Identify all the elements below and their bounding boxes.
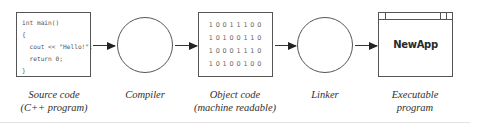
- code-line: {: [22, 32, 26, 38]
- compilation-diagram: int main() { cout << "Hello!"; return 0;…: [0, 0, 477, 129]
- code-line: int main(): [22, 20, 59, 26]
- code-line: }: [22, 68, 26, 74]
- executable-window: NewApp: [378, 12, 453, 77]
- app-name: NewApp: [379, 39, 452, 50]
- code-line: return 0;: [22, 56, 63, 62]
- source-code-box: int main() { cout << "Hello!"; return 0;…: [16, 12, 91, 77]
- binary-line: 10011100: [199, 22, 272, 29]
- window-titlebar: [379, 13, 452, 20]
- linker-circle: [297, 17, 353, 73]
- window-close-icon: [446, 13, 447, 19]
- window-minimize-icon: [440, 13, 441, 19]
- label-line: Executable: [360, 88, 470, 101]
- arrow-right-icon: [275, 45, 296, 46]
- executable-label: Executable program: [360, 88, 470, 114]
- arrow-right-icon: [175, 45, 197, 46]
- label-line: (machine readable): [180, 101, 290, 114]
- compiler-circle: [117, 17, 173, 73]
- window-menu-icon: [385, 13, 386, 19]
- binary-line: 10001110: [199, 48, 272, 55]
- code-line: cout << "Hello!";: [22, 44, 93, 50]
- binary-line: 10100110: [199, 35, 272, 42]
- arrow-right-icon: [93, 45, 115, 46]
- arrow-right-icon: [355, 45, 377, 46]
- divider: [0, 122, 470, 123]
- binary-line: 10100100: [199, 61, 272, 68]
- label-line: program: [360, 101, 470, 114]
- object-code-box: 10011100 10100110 10001110 10100100: [198, 12, 273, 77]
- label-line: (C++ program): [0, 101, 109, 114]
